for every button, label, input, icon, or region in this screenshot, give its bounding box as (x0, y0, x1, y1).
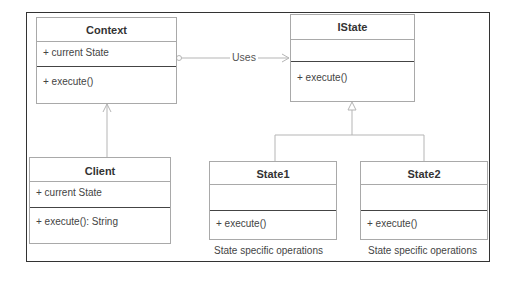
divider (291, 39, 414, 40)
divider (210, 210, 336, 211)
divider (361, 210, 487, 211)
divider (30, 181, 170, 182)
divider (210, 184, 336, 185)
class-state2[interactable]: State2 + execute() (360, 161, 488, 240)
class-name: Context (37, 24, 176, 36)
uses-label: Uses (230, 51, 258, 63)
class-name: IState (291, 21, 414, 33)
class-name: State1 (210, 168, 336, 180)
class-client[interactable]: Client + current State + execute(): Stri… (29, 157, 171, 244)
class-name: Client (30, 165, 170, 177)
divider (291, 61, 414, 62)
divider (361, 184, 487, 185)
divider (30, 207, 170, 208)
client-context-arrow (103, 104, 111, 157)
generalization-arrow (275, 102, 424, 161)
class-state1[interactable]: State1 + execute() (209, 161, 337, 240)
divider (37, 66, 176, 67)
operation: + execute() (367, 218, 417, 229)
operation: + execute(): String (36, 216, 118, 227)
operation: + execute() (216, 218, 266, 229)
attribute: + current State (43, 47, 109, 58)
operation: + execute() (43, 76, 93, 87)
attribute: + current State (36, 187, 102, 198)
state1-note: State specific operations (214, 245, 323, 256)
class-context[interactable]: Context + current State + execute() (36, 17, 177, 104)
class-name: State2 (361, 168, 487, 180)
state2-note: State specific operations (368, 245, 477, 256)
operation: + execute() (297, 72, 347, 83)
class-istate[interactable]: IState + execute() (290, 14, 415, 102)
divider (37, 41, 176, 42)
